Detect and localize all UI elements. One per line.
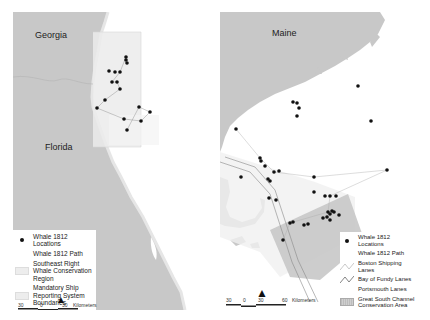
- legend-label: Whale 1812 Path: [358, 250, 404, 257]
- florida-label: Florida: [45, 142, 73, 152]
- legend-label: Portsmouth Lanes: [358, 286, 407, 293]
- path-line-icon: [340, 250, 354, 258]
- legend-item-portsmouth-lanes: Portsmouth Lanes: [340, 286, 415, 294]
- southeast-map-panel: Georgia Florida Whale 1812 Locations Wha…: [13, 12, 210, 310]
- northeast-map-panel: Maine Whale 1812 Locations Whale 1812 Pa…: [220, 12, 415, 310]
- legend-label: Whale 1812 Locations: [33, 233, 94, 248]
- scale-bar-graphic: [18, 307, 78, 310]
- scale-tick: 30: [226, 297, 232, 303]
- lane-line-icon: [340, 263, 354, 271]
- legend-label: Whale 1812 Path: [33, 250, 83, 257]
- scale-tick: 0: [40, 302, 43, 308]
- scale-unit: Kilometers: [73, 302, 97, 308]
- maine-label: Maine: [272, 28, 297, 38]
- legend-item-conservation-region: Southeast Right Whale Conservation Regio…: [15, 260, 94, 282]
- scale-tick: 0: [243, 297, 246, 303]
- legend-label: Southeast Right Whale Conservation Regio…: [33, 260, 94, 282]
- legend-item-gsc-area: Great South Channel Conservation Area: [340, 296, 415, 310]
- scale-unit: Kilometers: [292, 297, 316, 303]
- fill-swatch-icon: [15, 292, 29, 300]
- legend-item-fundy-lanes: Bay of Fundy Lanes: [340, 276, 415, 284]
- scale-tick: 30: [258, 297, 264, 303]
- legend-item-path: Whale 1812 Path: [340, 250, 415, 258]
- southeast-map-legend: Whale 1812 Locations Whale 1812 Path Sou…: [13, 230, 96, 310]
- legend-item-boston-lanes: Boston Shipping Lanes: [340, 260, 415, 274]
- legend-label: Bay of Fundy Lanes: [358, 276, 411, 283]
- georgia-label: Georgia: [35, 30, 67, 40]
- legend-label: Whale 1812 Locations: [358, 234, 415, 248]
- path-line-icon: [15, 250, 29, 258]
- dot-icon: [15, 236, 29, 244]
- northeast-map-legend: Whale 1812 Locations Whale 1812 Path Bos…: [340, 232, 415, 310]
- legend-label: Great South Channel Conservation Area: [358, 296, 415, 310]
- fill-swatch-icon: [340, 298, 354, 306]
- lane-line-icon: [340, 276, 354, 284]
- legend-label: Boston Shipping Lanes: [358, 260, 415, 274]
- dot-icon: [340, 237, 354, 245]
- fill-swatch-icon: [15, 267, 29, 275]
- legend-item-path: Whale 1812 Path: [15, 250, 94, 258]
- scale-tick: 30: [62, 302, 68, 308]
- reporting-boundary: [109, 115, 159, 145]
- lane-line-icon: [340, 286, 354, 294]
- scale-tick: 60: [282, 297, 288, 303]
- legend-item-locations: Whale 1812 Locations: [340, 234, 415, 248]
- maine-land: [220, 12, 385, 152]
- scale-bar-graphic: [226, 303, 286, 308]
- legend-item-locations: Whale 1812 Locations: [15, 233, 94, 248]
- scale-tick: 30: [18, 302, 24, 308]
